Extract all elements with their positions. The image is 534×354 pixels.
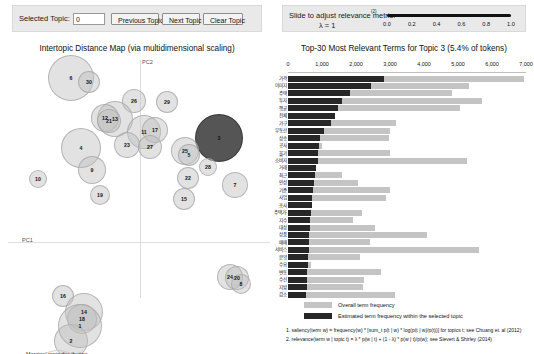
x-tick-7000: 7,000 [519, 61, 533, 67]
term-row[interactable]: 변동 [274, 269, 534, 276]
x-tick-0: 0 [287, 61, 290, 67]
topic-bubble-number-27: 27 [147, 144, 153, 150]
pc1-axis-line [8, 242, 270, 243]
x-tick-4000: 4,000 [417, 61, 431, 67]
topic-bubble-number-24: 24 [227, 274, 233, 280]
term-row[interactable]: 가격 [274, 75, 534, 82]
bar-topic-frequency [288, 187, 313, 193]
term-label: 기준 [274, 187, 287, 194]
term-label: 투자 [274, 97, 287, 104]
term-row[interactable]: 전체 [274, 112, 534, 119]
term-row[interactable]: 주택 [274, 90, 534, 97]
term-row[interactable]: 매매 [274, 239, 534, 246]
topic-bubble-number-16: 16 [60, 293, 66, 299]
relevant-terms-title: Top-30 Most Relevant Terms for Topic 3 (… [274, 44, 534, 53]
bar-topic-frequency [288, 262, 308, 268]
term-row[interactable]: 인상 [274, 179, 534, 186]
bar-topic-frequency [288, 232, 309, 238]
term-label: 최근 [274, 172, 287, 179]
term-row[interactable]: 거래 [274, 164, 534, 171]
term-label: 지방 [274, 284, 287, 291]
relevant-terms-bar-chart: 01,0002,0003,0004,0005,0006,0007,000 가격이… [274, 56, 534, 354]
term-row[interactable]: 물가 [274, 150, 534, 157]
bar-topic-frequency [288, 284, 307, 290]
selected-topic-input[interactable] [73, 13, 105, 25]
bar-topic-frequency [288, 247, 309, 253]
x-tick-6000: 6,000 [485, 61, 499, 67]
bar-topic-frequency [288, 269, 307, 275]
bar-topic-frequency [288, 254, 308, 260]
term-row[interactable]: 소비자 [274, 157, 534, 164]
topic-bubble-number-17: 17 [152, 127, 158, 133]
term-row[interactable]: 투자 [274, 97, 534, 104]
topic-selection-toolbar: Selected Topic: Previous Topic Next Topi… [12, 5, 262, 32]
bar-topic-frequency [288, 135, 320, 141]
slider-tick-0-0: 0.0 [380, 21, 394, 27]
bar-topic-frequency [288, 277, 307, 283]
bar-topic-frequency [288, 225, 310, 231]
bar-topic-frequency [288, 158, 318, 164]
term-row[interactable]: 상품 [274, 231, 534, 238]
term-row[interactable]: 기준 [274, 187, 534, 194]
term-row[interactable]: 조사 [274, 202, 534, 209]
topic-bubble-number-14: 14 [81, 309, 87, 315]
intertopic-scatter-plot[interactable]: PC2 PC1 63026291312211117232743255289221… [0, 56, 274, 354]
bar-topic-frequency [288, 76, 384, 82]
bar-topic-frequency [288, 210, 311, 216]
term-label: 매매 [274, 239, 287, 246]
clear-topic-button[interactable]: Clear Topic [203, 13, 243, 25]
bar-topic-frequency [288, 202, 312, 208]
bar-topic-frequency [288, 105, 338, 111]
previous-topic-button[interactable]: Previous Topic [111, 13, 159, 25]
term-label: 부동산 [274, 127, 287, 134]
relevant-terms-panel: Slide to adjust relevance metric: (2) λ … [274, 0, 534, 354]
term-row[interactable]: 최근 [274, 172, 534, 179]
x-tick-2000: 2,000 [349, 61, 363, 67]
topic-bubble-number-1: 1 [79, 323, 82, 329]
term-row[interactable]: 가구 [274, 120, 534, 127]
bar-topic-frequency [288, 83, 371, 89]
term-label: 수요 [274, 261, 287, 268]
term-label: 감소 [274, 291, 287, 298]
topic-bubble-number-8: 8 [240, 281, 243, 287]
next-topic-button[interactable]: Next Topic [162, 13, 200, 25]
bar-topic-frequency [288, 98, 342, 104]
term-row[interactable]: 지수 [274, 217, 534, 224]
term-row[interactable]: 주택가격 [274, 209, 534, 216]
x-tick-3000: 3,000 [383, 61, 397, 67]
bar-topic-frequency [288, 150, 318, 156]
term-label: 상품 [274, 231, 287, 238]
topic-bubble-number-21: 21 [106, 118, 112, 124]
term-label: 가구 [274, 120, 287, 127]
legend-label-overall: Overall term frequency [338, 302, 395, 308]
term-label: 공사 [274, 142, 287, 149]
term-label: 인상 [274, 179, 287, 186]
topic-bubble-number-26: 26 [131, 98, 137, 104]
term-row[interactable]: 평균 [274, 105, 534, 112]
term-row[interactable]: 부동산 [274, 127, 534, 134]
relevance-slider-track[interactable] [387, 14, 511, 17]
term-row[interactable]: 감소 [274, 291, 534, 298]
term-label: 이미지 [274, 82, 287, 89]
term-row[interactable]: 수산 [274, 276, 534, 283]
term-row[interactable]: 공사 [274, 142, 534, 149]
term-row[interactable]: 수요 [274, 261, 534, 268]
x-tick-5000: 5,000 [451, 61, 465, 67]
bar-topic-frequency [288, 113, 335, 119]
term-row[interactable]: 지방 [274, 284, 534, 291]
term-label: 거래 [274, 164, 287, 171]
term-row[interactable]: 서비스 [274, 246, 534, 253]
topic-bubble-number-13: 13 [112, 116, 118, 122]
term-row[interactable]: 대상 [274, 224, 534, 231]
topic-bubble-number-11: 11 [141, 129, 146, 135]
bar-overall-frequency [288, 247, 479, 253]
topic-bubble-number-6: 6 [70, 75, 73, 81]
lambda-value-label: λ = 1 [319, 21, 335, 30]
bar-topic-frequency [288, 239, 309, 245]
term-label: 서비스 [274, 246, 287, 253]
topic-bubble-number-9: 9 [91, 167, 94, 173]
term-row[interactable]: 이미지 [274, 82, 534, 89]
term-row[interactable]: 사업 [274, 194, 534, 201]
term-row[interactable]: 분양 [274, 254, 534, 261]
term-row[interactable]: 상승 [274, 135, 534, 142]
